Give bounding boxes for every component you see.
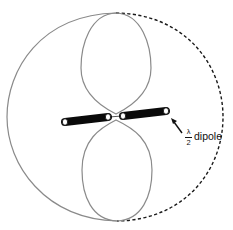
dipole-diagram: λ 2 dipole bbox=[0, 0, 233, 230]
lower-lobe bbox=[82, 120, 152, 221]
dipole-label: dipole bbox=[194, 131, 222, 142]
diagram-graphic bbox=[0, 0, 233, 230]
label-numerator: λ bbox=[185, 128, 192, 138]
lambda-over-two-label: λ 2 bbox=[185, 128, 192, 146]
label-denominator: 2 bbox=[185, 138, 192, 147]
pointer-arrow-icon bbox=[171, 118, 182, 133]
dipole-right-rod bbox=[120, 108, 168, 119]
upper-lobe bbox=[81, 13, 151, 114]
dipole-left-rod bbox=[62, 114, 110, 125]
